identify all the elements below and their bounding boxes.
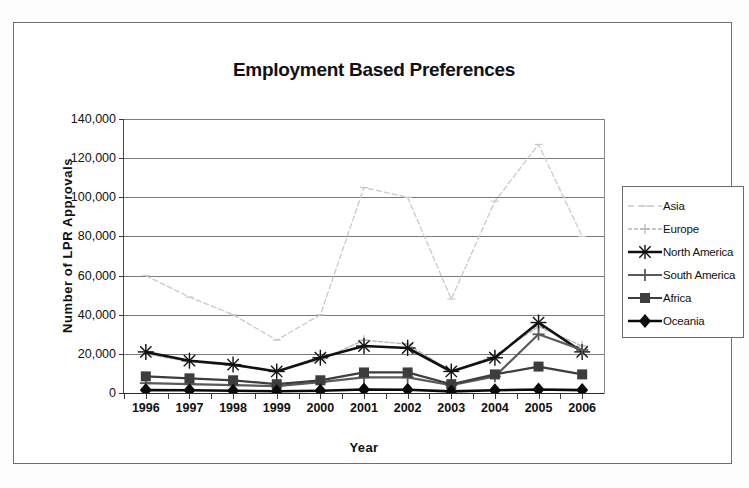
x-tick-mark-minor	[560, 394, 561, 399]
x-axis-label: Year	[124, 440, 604, 455]
x-tick-mark	[146, 394, 147, 399]
x-tick-mark	[451, 394, 452, 399]
legend-item-south-america[interactable]: South America	[627, 263, 739, 286]
x-tick-mark	[189, 394, 190, 399]
x-tick-mark	[539, 394, 540, 399]
x-tick-mark	[408, 394, 409, 399]
y-tick-label: 20,000	[46, 347, 116, 361]
x-tick-mark-minor	[255, 394, 256, 399]
x-tick-mark-minor	[386, 394, 387, 399]
x-tick-mark-minor	[211, 394, 212, 399]
x-tick-mark	[277, 394, 278, 399]
plot-area	[124, 119, 604, 393]
legend-swatch-icon	[627, 245, 663, 259]
page-frame: Employment Based Preferences Number of L…	[13, 22, 732, 464]
x-tick-mark-minor	[342, 394, 343, 399]
x-tick-mark-minor	[429, 394, 430, 399]
x-tick-mark-minor	[124, 394, 125, 399]
legend-item-europe[interactable]: Europe	[627, 217, 739, 240]
legend-swatch-icon	[627, 222, 663, 236]
legend-swatch-icon	[627, 291, 663, 305]
x-tick-mark-minor	[473, 394, 474, 399]
y-tick-label: 100,000	[46, 190, 116, 204]
y-tick-label: 120,000	[46, 151, 116, 165]
series-asia	[142, 144, 586, 340]
legend-item-label: Africa	[663, 292, 691, 304]
x-tick-mark	[364, 394, 365, 399]
x-tick-mark	[320, 394, 321, 399]
legend-item-asia[interactable]: Asia	[627, 194, 739, 217]
plot-right-border	[604, 119, 605, 394]
chart-title: Employment Based Preferences	[164, 59, 584, 81]
y-tick-label: 140,000	[46, 112, 116, 126]
legend-item-label: South America	[663, 269, 735, 281]
legend-item-oceania[interactable]: Oceania	[627, 309, 739, 332]
chart-legend: AsiaEuropeNorth AmericaSouth AmericaAfri…	[622, 186, 744, 338]
legend-item-label: North America	[663, 246, 733, 258]
x-tick-mark-minor	[517, 394, 518, 399]
x-tick-mark	[582, 394, 583, 399]
x-tick-label: 2006	[555, 401, 609, 415]
scanned-page: Employment Based Preferences Number of L…	[0, 0, 749, 488]
legend-item-north-america[interactable]: North America	[627, 240, 739, 263]
legend-item-label: Asia	[663, 200, 685, 212]
y-tick-label: 60,000	[46, 269, 116, 283]
x-tick-mark-minor	[299, 394, 300, 399]
legend-swatch-icon	[627, 268, 663, 282]
legend-item-africa[interactable]: Africa	[627, 286, 739, 309]
series-layer	[124, 119, 604, 393]
legend-swatch-icon	[627, 314, 663, 328]
y-tick-label: 0	[46, 386, 116, 400]
y-tick-label: 40,000	[46, 308, 116, 322]
x-tick-mark	[233, 394, 234, 399]
legend-item-label: Europe	[663, 223, 699, 235]
x-tick-mark	[495, 394, 496, 399]
y-tick-label: 80,000	[46, 229, 116, 243]
legend-item-label: Oceania	[663, 315, 704, 327]
x-tick-mark-minor	[168, 394, 169, 399]
legend-swatch-icon	[627, 199, 663, 213]
